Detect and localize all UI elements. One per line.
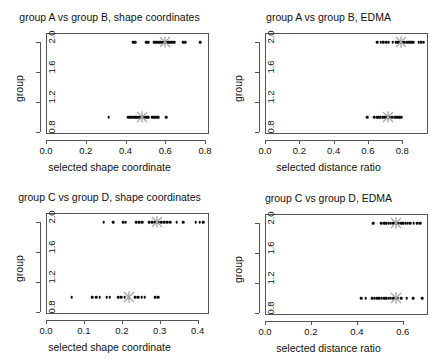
y-axis-label: group [13,255,25,282]
panel-title: group C vs group D, EDMA [219,192,438,204]
group-mean-marker [159,36,172,49]
x-tick [84,320,85,324]
x-tick [334,140,335,144]
chart-panel-bottom-left: group C vs group D, shape coordinates0.0… [0,180,219,360]
y-tick [36,72,40,73]
panel-title: group C vs group D, shape coordinates [0,191,219,203]
x-tick [368,140,369,144]
data-point [360,297,363,300]
data-point [108,296,111,299]
y-tick [255,253,259,254]
y-tick-label: 1.2 [47,91,57,104]
y-tick-label: 1.2 [266,91,276,104]
y-tick [255,102,259,103]
x-tick [122,320,123,324]
x-tick [357,321,358,325]
y-tick-label: 0.8 [47,301,57,314]
x-tick [46,140,47,144]
x-tick [160,320,161,324]
data-point [112,221,115,224]
x-axis-label: selected distance ratio [219,161,438,173]
y-tick-label: 1.2 [266,272,276,285]
y-tick-label: 1.6 [47,241,57,254]
data-point [366,116,369,119]
y-tick-label: 1.6 [266,242,276,255]
data-point [173,41,176,44]
y-tick [255,42,259,43]
y-tick [36,282,40,283]
x-tick-label: 0.6 [361,146,374,156]
y-tick-label: 0.8 [266,121,276,134]
x-tick-label: 0.0 [39,326,52,336]
data-point [70,296,73,299]
y-tick [36,312,40,313]
y-tick-label: 1.2 [47,271,57,284]
data-point [412,297,415,300]
data-point [102,221,105,224]
data-point [376,41,379,44]
group-mean-marker [381,111,394,124]
y-tick-label: 2.0 [266,30,276,43]
data-point [134,41,137,44]
data-point [422,41,425,44]
x-tick-label: 0.2 [115,326,128,336]
group-mean-marker [395,36,408,49]
x-tick [311,321,312,325]
y-tick-label: 0.8 [47,121,57,134]
y-tick [255,132,259,133]
y-axis-label: group [13,75,25,102]
x-tick-label: 0.2 [79,146,92,156]
data-point [412,41,415,44]
data-point [175,221,178,224]
data-point [409,222,412,225]
x-tick [402,140,403,144]
x-tick [403,321,404,325]
group-mean-marker [122,291,135,304]
y-tick [36,102,40,103]
chart-panel-top-left: group A vs group B, shape coordinates0.0… [0,0,219,180]
data-point [169,221,172,224]
data-point [198,221,201,224]
data-point [143,296,146,299]
data-point [91,296,94,299]
y-tick-label: 2.0 [47,30,57,43]
x-tick [265,321,266,325]
y-axis-line [259,223,260,313]
x-tick-label: 0.8 [198,146,211,156]
x-tick-label: 0.2 [304,327,317,337]
figure-panel-grid: group A vs group B, shape coordinates0.0… [0,0,438,361]
x-axis-label: selected distance ratio [219,342,438,354]
y-tick [36,42,40,43]
chart-panel-top-right: group A vs group B, EDMA0.00.20.40.60.80… [219,0,438,180]
y-tick-label: 1.6 [266,61,276,74]
y-tick [255,72,259,73]
x-tick-label: 0.6 [159,146,172,156]
x-tick-label: 0.8 [396,146,409,156]
x-tick-label: 0.4 [191,326,204,336]
data-point [124,221,127,224]
data-point [184,41,187,44]
x-tick-label: 0.0 [258,146,271,156]
x-tick [46,320,47,324]
x-tick-label: 0.2 [293,146,306,156]
data-point [406,297,409,300]
x-tick-label: 0.3 [153,326,166,336]
x-tick-label: 0.0 [39,146,52,156]
data-point [182,221,185,224]
y-axis-line [259,42,260,132]
x-tick [299,140,300,144]
data-point [141,221,144,224]
chart-panel-bottom-right: group C vs group D, EDMA0.00.20.40.60.81… [219,181,438,361]
x-tick [126,140,127,144]
plot-box [46,33,209,134]
data-point [95,296,98,299]
x-tick [205,140,206,144]
y-tick [36,132,40,133]
y-tick-label: 2.0 [266,211,276,224]
plot-box [265,214,428,315]
group-mean-marker [390,217,403,230]
group-mean-marker [150,216,163,229]
x-tick [265,140,266,144]
data-point [147,41,150,44]
y-tick [255,283,259,284]
